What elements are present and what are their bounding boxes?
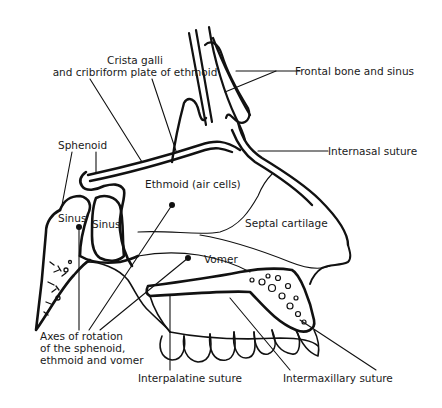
- nasal-septum-diagram: Crista galli and cribriform plate of eth…: [0, 0, 442, 408]
- septal-cartilage-edge: [310, 245, 350, 284]
- label-crista-galli: Crista galli and cribriform plate of eth…: [45, 54, 225, 78]
- label-intermaxillary-suture: Intermaxillary suture: [283, 372, 393, 384]
- palate: [147, 269, 315, 332]
- sphenoid-axis-dot: [76, 224, 82, 230]
- label-vomer: Vomer: [204, 253, 238, 265]
- sphenoid-texture: [44, 261, 72, 316]
- label-axes-line2: of the sphenoid,: [40, 342, 144, 354]
- label-sphenoid: Sphenoid: [58, 139, 107, 151]
- frontal-bone: [189, 27, 250, 140]
- label-frontal-bone: Frontal bone and sinus: [295, 65, 414, 77]
- label-interpalatine-suture: Interpalatine suture: [138, 372, 242, 384]
- label-sinus-left: Sinus: [58, 212, 86, 224]
- label-crista-galli-line2: and cribriform plate of ethmoid: [45, 66, 225, 78]
- ethmoid-axis-dot: [169, 202, 175, 208]
- label-septal-cartilage: Septal cartilage: [245, 217, 328, 229]
- label-axes-of-rotation: Axes of rotation of the sphenoid, ethmoi…: [40, 330, 144, 366]
- label-axes-line3: ethmoid and vomer: [40, 354, 144, 366]
- label-internasal-suture: Internasal suture: [328, 145, 417, 157]
- sphenoid-bone: [36, 172, 138, 330]
- label-crista-galli-line1: Crista galli: [45, 54, 225, 66]
- vomer-axis-dot: [185, 255, 191, 261]
- label-sinus-right: Sinus: [92, 218, 120, 230]
- label-axes-line1: Axes of rotation: [40, 330, 144, 342]
- label-ethmoid: Ethmoid (air cells): [145, 178, 241, 190]
